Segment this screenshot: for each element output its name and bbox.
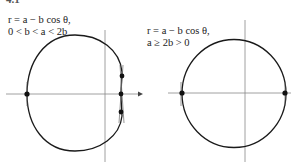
cusp-dot-top bbox=[120, 74, 125, 79]
polar-curves-diagram bbox=[0, 0, 291, 168]
cusp-dot-middle bbox=[119, 92, 124, 97]
right-left-dot bbox=[179, 90, 184, 95]
left-limacon-curve bbox=[27, 35, 122, 151]
cusp-dot-bottom bbox=[119, 110, 124, 115]
arrow-right-icon bbox=[138, 92, 143, 97]
right-limacon-curve bbox=[182, 40, 286, 148]
right-axes bbox=[168, 20, 291, 162]
left-point-dot bbox=[24, 91, 29, 96]
right-right-dot bbox=[282, 90, 287, 95]
